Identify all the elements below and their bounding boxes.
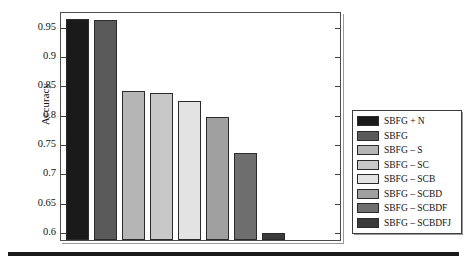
legend-swatch bbox=[357, 160, 379, 170]
legend-label: SBFG bbox=[384, 131, 408, 141]
legend-label: SBFG – S bbox=[384, 145, 423, 155]
y-tick-mark-right bbox=[335, 57, 340, 58]
y-tick-label: 0.6 bbox=[22, 227, 56, 237]
y-tick-label: 0.8 bbox=[22, 110, 56, 120]
legend-item: SBFG – SCBDF bbox=[357, 201, 458, 216]
y-tick-label: 0.65 bbox=[22, 198, 56, 208]
bar bbox=[234, 153, 257, 240]
legend-item: SBFG – SCBDFJ bbox=[357, 216, 458, 231]
y-tick-label: 0.85 bbox=[22, 80, 56, 90]
bar bbox=[94, 20, 117, 240]
y-tick-label: 0.95 bbox=[22, 22, 56, 32]
legend-swatch bbox=[357, 218, 379, 228]
bar bbox=[262, 233, 285, 240]
bar-chart-figure: Accuracy 0.60.650.70.750.80.850.90.95 SB… bbox=[0, 0, 467, 270]
legend-swatch bbox=[357, 145, 379, 155]
y-tick-label: 0.9 bbox=[22, 51, 56, 61]
chart-legend: SBFG + NSBFGSBFG – SSBFG – SCSBFG – SCBS… bbox=[352, 110, 462, 234]
legend-item: SBFG – S bbox=[357, 143, 458, 158]
legend-swatch bbox=[357, 174, 379, 184]
y-tick-mark-right bbox=[335, 204, 340, 205]
legend-item: SBFG – SCBD bbox=[357, 187, 458, 202]
legend-label: SBFG – SCBD bbox=[384, 189, 442, 199]
legend-swatch bbox=[357, 189, 379, 199]
bar bbox=[178, 101, 201, 240]
bottom-rule bbox=[8, 252, 459, 256]
y-tick-mark-right bbox=[335, 145, 340, 146]
y-tick-mark-right bbox=[335, 174, 340, 175]
legend-label: SBFG – SCBDFJ bbox=[384, 218, 451, 228]
bar bbox=[122, 91, 145, 240]
plot-area bbox=[60, 12, 341, 241]
legend-item: SBFG + N bbox=[357, 114, 458, 129]
legend-label: SBFG – SCB bbox=[384, 174, 435, 184]
bar bbox=[150, 93, 173, 240]
legend-swatch bbox=[357, 131, 379, 141]
legend-label: SBFG – SCBDF bbox=[384, 203, 447, 213]
bar bbox=[66, 19, 89, 240]
legend-label: SBFG – SC bbox=[384, 160, 429, 170]
legend-swatch bbox=[357, 116, 379, 126]
y-tick-mark-right bbox=[335, 86, 340, 87]
legend-swatch bbox=[357, 203, 379, 213]
y-tick-mark-right bbox=[335, 116, 340, 117]
y-axis-tick-labels: 0.60.650.70.750.80.850.90.95 bbox=[18, 12, 56, 241]
legend-item: SBFG – SCB bbox=[357, 172, 458, 187]
legend-item: SBFG – SC bbox=[357, 158, 458, 173]
legend-label: SBFG + N bbox=[384, 116, 425, 126]
bar bbox=[206, 117, 229, 240]
y-tick-mark-right bbox=[335, 28, 340, 29]
y-tick-mark-right bbox=[335, 233, 340, 234]
legend-item: SBFG bbox=[357, 129, 458, 144]
y-tick-label: 0.7 bbox=[22, 168, 56, 178]
y-tick-label: 0.75 bbox=[22, 139, 56, 149]
